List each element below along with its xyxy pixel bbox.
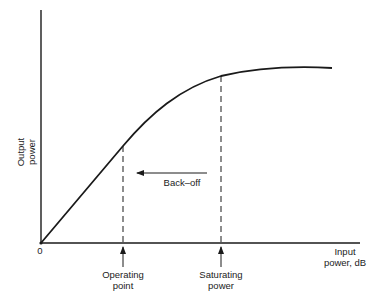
y-axis-label: Output power	[15, 127, 39, 177]
x-axis-label-line2: power, dB	[312, 257, 378, 268]
x-axis-label: Input power, dB	[312, 246, 378, 268]
origin-label: 0	[34, 245, 46, 256]
saturating-power-label: Saturating power	[189, 269, 253, 291]
x-axis-label-line1: Input	[312, 246, 378, 257]
y-axis-label-line1: Output	[15, 127, 26, 177]
operating-point-label: Operating point	[93, 269, 153, 291]
operating-point-label-line2: point	[93, 280, 153, 291]
operating-point-label-line1: Operating	[93, 269, 153, 280]
saturating-power-label-line2: power	[189, 280, 253, 291]
saturating-power-label-line1: Saturating	[189, 269, 253, 280]
transfer-curve	[41, 67, 332, 243]
y-axis-label-line2: power	[26, 127, 37, 177]
backoff-label: Back–off	[152, 177, 212, 188]
